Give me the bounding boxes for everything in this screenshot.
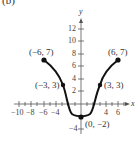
y-tick-label: 4 xyxy=(72,75,76,83)
x-axis-label: x xyxy=(131,100,135,108)
y-axis-label: y xyxy=(79,8,83,16)
point-label: (3, 3) xyxy=(104,81,124,90)
y-tick-label: 12 xyxy=(68,25,76,33)
point-label: (6, 7) xyxy=(108,48,128,57)
y-tick-label: −4 xyxy=(69,125,78,133)
point-neg6-7 xyxy=(41,57,46,62)
x-tick-label: −6 xyxy=(39,109,48,117)
point-label: (−3, 3) xyxy=(35,81,60,90)
y-tick-label: 6 xyxy=(72,62,76,70)
x-tick-label: 4 xyxy=(104,109,108,117)
point-0-neg2 xyxy=(78,114,83,119)
point-label: (−6, 7) xyxy=(29,48,54,57)
x-tick-label: −8 xyxy=(26,109,35,117)
y-tick-label: 8 xyxy=(72,50,76,58)
x-tick-label: 6 xyxy=(116,109,120,117)
point-3-3 xyxy=(98,83,102,87)
point-neg3-3 xyxy=(61,83,65,87)
y-tick-label: 2 xyxy=(72,87,76,95)
point-label: (0, −2) xyxy=(85,120,110,129)
x-tick-label: −4 xyxy=(51,109,60,117)
x-tick-label: −10 xyxy=(11,109,24,117)
y-tick-label: 10 xyxy=(68,37,76,45)
point-6-7 xyxy=(115,57,120,62)
